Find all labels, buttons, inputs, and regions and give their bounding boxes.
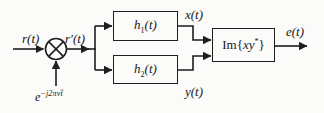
oscillator-label: e−j2πν̂t bbox=[35, 90, 63, 103]
multiply-circle-icon bbox=[46, 39, 67, 60]
filter2-label: h2(t) bbox=[134, 61, 157, 79]
mixed-signal-label: r′(t) bbox=[65, 32, 85, 45]
x-path-arrow bbox=[178, 26, 211, 40]
filter2-block: h2(t) bbox=[113, 55, 178, 84]
detector-block: Im{xy*} bbox=[212, 28, 275, 62]
detector-label: Im{xy*} bbox=[222, 37, 264, 53]
y-path-arrow bbox=[178, 56, 211, 70]
x-signal-label: x(t) bbox=[185, 8, 203, 21]
error-signal-label: e(t) bbox=[286, 25, 304, 38]
y-signal-label: y(t) bbox=[185, 85, 203, 98]
block-diagram-frequency-error-detector: h1(t) h2(t) Im{xy*} r(t) r′(t) x(t) y(t)… bbox=[0, 0, 324, 113]
input-signal-label: r(t) bbox=[22, 32, 39, 45]
filter1-block: h1(t) bbox=[113, 11, 178, 41]
filter1-label: h1(t) bbox=[134, 17, 157, 35]
